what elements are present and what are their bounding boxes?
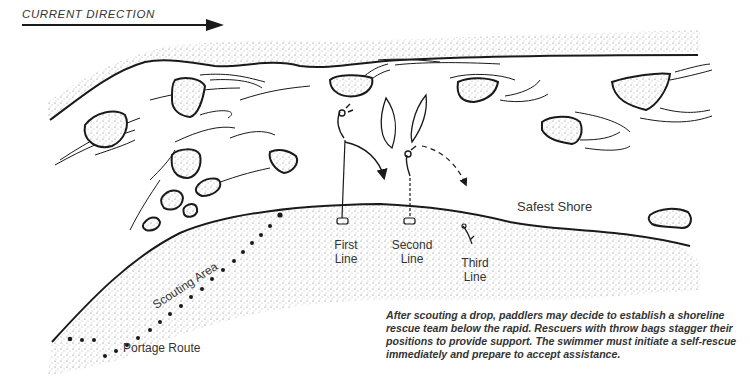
- rock: [458, 78, 498, 102]
- third-line-label: Third Line: [457, 256, 493, 284]
- third-line-label-line2: Line: [457, 270, 493, 284]
- rock: [143, 218, 160, 231]
- far-shore: [48, 30, 700, 120]
- kayak-icons: [381, 95, 426, 148]
- dashed-drift-arrow-icon: [422, 146, 466, 185]
- rock: [612, 73, 670, 110]
- rock: [542, 117, 582, 144]
- second-line-label-line1: Second: [390, 238, 434, 252]
- rock: [183, 204, 197, 217]
- second-line-label: Second Line: [390, 238, 434, 266]
- kayak-icon: [411, 95, 426, 142]
- second-line-label-line2: Line: [390, 252, 434, 266]
- safest-shore-label: Safest Shore: [517, 200, 592, 214]
- kayak-icon: [381, 98, 395, 148]
- diagram-caption: After scouting a drop, paddlers may deci…: [386, 309, 746, 361]
- swimmer-1-icon: [338, 104, 353, 138]
- first-line-label-line2: Line: [330, 252, 362, 266]
- rock: [196, 178, 220, 196]
- rock: [172, 149, 201, 178]
- rock: [330, 75, 372, 96]
- rock: [85, 112, 127, 147]
- current-direction-arrow-icon: [22, 19, 224, 31]
- first-line-label: First Line: [330, 238, 362, 266]
- third-line-label-line1: Third: [457, 256, 493, 270]
- first-line-label-line1: First: [330, 238, 362, 252]
- rock: [270, 150, 297, 173]
- rock: [649, 209, 691, 228]
- drift-arrow-icon: [345, 142, 384, 178]
- swimmer-2-icon: [405, 146, 416, 176]
- rock: [161, 191, 183, 210]
- portage-route-label: Portage Route: [123, 341, 200, 355]
- rock: [172, 78, 205, 117]
